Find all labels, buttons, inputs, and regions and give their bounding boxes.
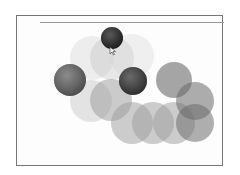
ball-shading bbox=[119, 67, 147, 95]
game-board[interactable] bbox=[0, 0, 240, 175]
ghost-ball-10 bbox=[176, 82, 214, 120]
ball-shading bbox=[101, 27, 123, 49]
ball-shading bbox=[54, 64, 86, 96]
ball-layer bbox=[54, 27, 214, 144]
